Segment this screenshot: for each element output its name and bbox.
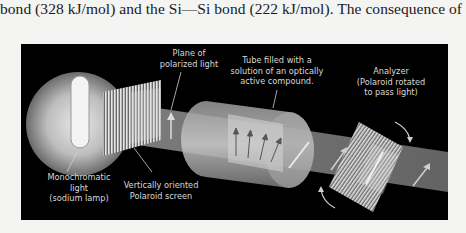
polarimeter-figure: Monochromatic light (sodium lamp) Vertic… — [21, 44, 448, 220]
label-tube: Tube filled with a solution of an optica… — [227, 55, 327, 87]
label-lamp: Monochromatic light (sodium lamp) — [34, 172, 124, 204]
label-analyzer: Analyzer (Polaroid rotated to pass light… — [351, 66, 431, 98]
body-text-line: bond (328 kJ/mol) and the Si—Si bond (22… — [0, 0, 466, 18]
label-plane: Plane of polarized light — [151, 48, 227, 69]
label-polaroid: Vertically oriented Polaroid screen — [117, 180, 205, 201]
rotate-arrow-icon — [321, 190, 335, 208]
rotate-arrow-icon — [395, 122, 410, 139]
sodium-lamp-icon — [71, 76, 89, 148]
